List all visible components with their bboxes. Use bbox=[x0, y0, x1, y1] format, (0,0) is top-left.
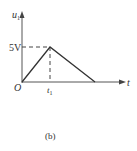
origin-label: O bbox=[14, 82, 21, 93]
x-axis-label: t bbox=[127, 77, 130, 88]
figure-caption: (b) bbox=[45, 131, 56, 141]
x-tick-t1: t1 bbox=[47, 85, 53, 96]
waveform-chart: u1 5V O t1 t (b) bbox=[0, 0, 137, 151]
y-tick-5v: 5V bbox=[9, 42, 22, 53]
x-axis-arrow-icon bbox=[119, 80, 126, 85]
y-axis-label: u1 bbox=[12, 9, 20, 21]
y-axis-arrow-icon bbox=[20, 11, 25, 18]
waveform-series-u1 bbox=[22, 47, 95, 82]
